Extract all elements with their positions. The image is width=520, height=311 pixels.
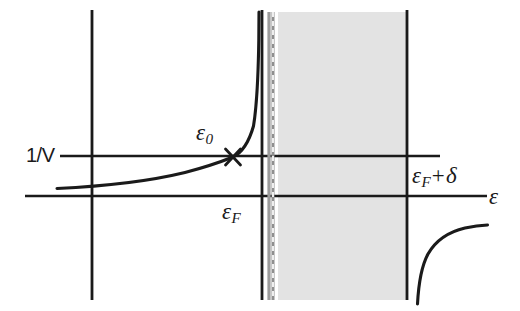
epsilon-f-label: εF <box>222 200 240 223</box>
figure-canvas <box>0 0 520 311</box>
epsilon-f-subscript: F <box>231 209 240 226</box>
epsilon-zero-subscript: 0 <box>205 130 213 147</box>
epsilon-axis-label: ε <box>489 185 498 208</box>
lower-right-hyperbola-branch <box>418 225 488 304</box>
epsilon-f-plus-delta-label: εF+δ <box>412 164 457 187</box>
epsilon-f-delta-suffix: +δ <box>430 163 456 188</box>
epsilon-zero-label: ε0 <box>196 121 213 144</box>
one-over-v-label: 1/V <box>26 145 55 165</box>
epsilon-f-delta-subscript: F <box>421 173 430 190</box>
physics-figure: 1/V ε0 εF εF+δ ε <box>0 0 520 311</box>
epsilon-f-base: ε <box>222 199 231 224</box>
epsilon-zero-base: ε <box>196 120 205 145</box>
epsilon-f-delta-base: ε <box>412 163 421 188</box>
